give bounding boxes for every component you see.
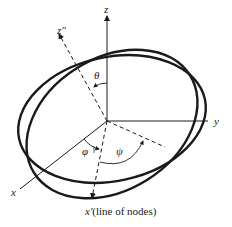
line-of-nodes-note: (line of nodes)	[92, 205, 156, 218]
phi-label: φ	[82, 145, 88, 157]
z-axis-label: z	[103, 3, 109, 15]
x-prime-label: x′(line of nodes)	[84, 205, 157, 218]
rotated-plane-ellipse	[0, 19, 225, 227]
rotated-x-axis	[107, 121, 165, 147]
theta-arc	[94, 83, 107, 87]
z-double-prime-axis	[59, 34, 107, 121]
theta-label: θ	[94, 69, 100, 81]
z-double-prime-label: z″	[56, 24, 66, 36]
psi-label: ψ	[116, 145, 123, 157]
euler-angle-diagram: z y x z″ x′(line of nodes) θ φ ψ	[0, 0, 232, 227]
x-axis-label: x	[10, 186, 16, 198]
y-axis-label: y	[213, 115, 219, 127]
x-prime-axis	[92, 121, 107, 198]
